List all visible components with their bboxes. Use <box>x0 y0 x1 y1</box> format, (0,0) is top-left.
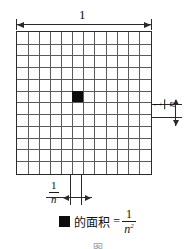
bottom-dimension-arrow-left-icon <box>63 195 69 201</box>
bottom-dimension-arrow-right-icon <box>85 195 91 201</box>
right-fraction-denominator: n <box>166 100 178 110</box>
bottom-fraction: 1 n <box>49 180 59 205</box>
grid-hline <box>17 114 151 115</box>
grid-hline <box>17 91 151 92</box>
bottom-dimension-extension-left <box>70 175 71 205</box>
caption-fraction-numerator: 1 <box>122 208 136 221</box>
grid-hline <box>17 138 151 139</box>
unit-square-grid-figure: 1 1 n 1 n <box>0 0 195 249</box>
top-dimension-tick-right <box>151 19 152 30</box>
caption-denominator-exponent: 2 <box>130 222 134 230</box>
right-fraction-numerator: 1 <box>152 100 164 110</box>
grid-hline <box>17 55 151 56</box>
bottom-dimension-label: 1 n <box>49 180 59 205</box>
grid-hline <box>17 79 151 80</box>
grid-hline <box>17 44 151 45</box>
caption-text: 的面积 <box>74 213 110 230</box>
grid-hline <box>17 67 151 68</box>
black-square-icon <box>59 216 70 227</box>
caption-fraction-denominator: n2 <box>122 223 136 236</box>
top-dimension-arrow-right-icon <box>144 22 151 28</box>
unit-square <box>16 31 152 175</box>
grid-lines <box>17 32 151 174</box>
grid-hline <box>17 126 151 127</box>
right-dimension-arrow-down-icon <box>173 120 179 126</box>
grid-hline <box>17 161 151 162</box>
figure-caption: 的面积 = 1 n2 <box>0 208 195 235</box>
right-dimension-leader-bottom <box>152 117 182 118</box>
bottom-fraction-denominator: n <box>49 194 59 206</box>
top-dimension-label: 1 <box>79 8 86 21</box>
bottom-dimension-extension-right <box>81 175 82 205</box>
right-fraction: 1 n <box>152 100 177 110</box>
grid-hline <box>17 149 151 150</box>
grid-hline <box>17 102 151 103</box>
top-dimension-arrow-left-icon <box>17 22 24 28</box>
figure-number: 图 <box>0 240 195 249</box>
filled-cell <box>72 91 83 103</box>
bottom-fraction-numerator: 1 <box>49 180 59 192</box>
top-dimension-line <box>16 24 152 25</box>
caption-fraction: 1 n2 <box>122 208 136 235</box>
right-dimension-label: 1 n <box>152 100 177 110</box>
caption-equals: = <box>113 214 120 229</box>
